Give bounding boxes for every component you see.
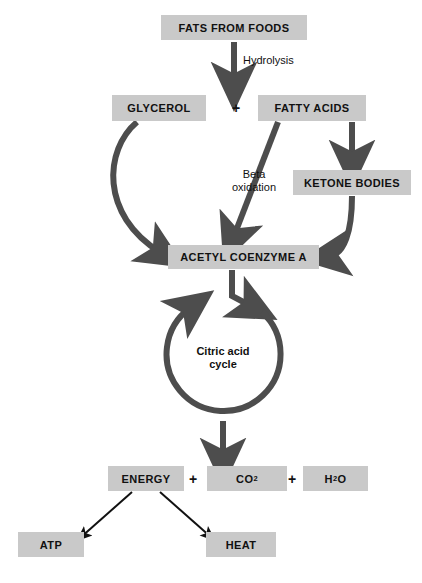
node-ketone-bodies[interactable]: KETONE BODIES [293,170,411,195]
node-co2[interactable]: CO2 [207,466,287,491]
arrow-energy-to-atp [80,492,132,538]
node-heat[interactable]: HEAT [206,532,276,557]
arrow-ketone-to-acetyl [330,196,352,256]
node-glycerol[interactable]: GLYCEROL [112,95,206,121]
co2-base: CO [236,473,253,485]
plus-energy-co2: + [185,468,201,490]
label-citric-acid-cycle: Citric acid cycle [173,345,273,371]
node-h2o[interactable]: H2O [303,466,368,491]
node-atp[interactable]: ATP [18,532,84,557]
arrow-energy-to-heat [160,492,212,538]
arrow-acetyl-to-cycle [232,270,251,306]
h2o-base-b: O [337,473,346,485]
connector-layer [0,0,422,583]
node-fats-from-foods[interactable]: FATS FROM FOODS [161,15,307,40]
node-fatty-acids[interactable]: FATTY ACIDS [258,95,366,121]
label-hydrolysis: Hydrolysis [243,54,294,67]
node-energy[interactable]: ENERGY [108,466,184,491]
arrow-glycerol-to-acetyl [113,122,160,252]
co2-subscript: 2 [253,474,258,483]
plus-glycerol-fatty-acids: + [228,97,244,119]
h2o-base-a: H [325,473,333,485]
node-acetyl-coenzyme-a[interactable]: ACETYL COENZYME A [168,245,319,269]
diagram-canvas: FATS FROM FOODS GLYCEROL FATTY ACIDS KET… [0,0,422,583]
label-beta-oxidation: Beta oxidation [232,168,276,194]
plus-co2-h2o: + [284,468,300,490]
